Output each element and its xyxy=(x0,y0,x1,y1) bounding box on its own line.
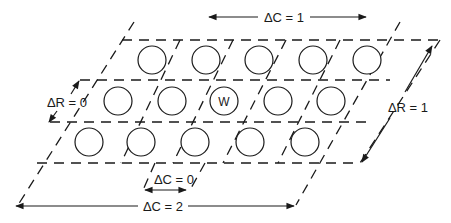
die-cell xyxy=(245,46,273,74)
delta-c-0-dimension: ΔC = 0 xyxy=(145,172,194,190)
center-cell-label: W xyxy=(218,95,230,109)
die-cell xyxy=(353,46,381,74)
die-cell xyxy=(75,128,103,156)
arrow-down xyxy=(362,118,390,162)
delta-c-2-dimension: ΔC = 2 xyxy=(16,199,294,214)
die-cell xyxy=(138,46,166,74)
delta-c-0-label: ΔC = 0 xyxy=(154,172,194,187)
arrow-up xyxy=(71,81,79,94)
die-cell xyxy=(317,87,345,115)
delta-r-0-dimension: ΔR = 0 xyxy=(47,81,87,122)
wafer-grid-diagram: W ΔC = 1 ΔR = 0 ΔR = 1 ΔC = 0 ΔC = 2 xyxy=(0,0,451,223)
die-cell xyxy=(181,128,209,156)
die-cell xyxy=(291,128,319,156)
cells: W xyxy=(75,46,381,156)
die-cell xyxy=(264,87,292,115)
delta-c-1-dimension: ΔC = 1 xyxy=(209,10,366,25)
die-cell xyxy=(236,128,264,156)
die-cell xyxy=(192,46,220,74)
arrow-down xyxy=(49,111,57,122)
delta-c-1-label: ΔC = 1 xyxy=(264,10,304,25)
die-cell xyxy=(158,87,186,115)
arrow-up xyxy=(405,46,432,92)
delta-r-0-label: ΔR = 0 xyxy=(47,95,87,110)
die-cell xyxy=(127,128,155,156)
die-cell xyxy=(299,46,327,74)
delta-c-2-label: ΔC = 2 xyxy=(143,199,183,214)
delta-r-1-label: ΔR = 1 xyxy=(388,100,428,115)
die-cell xyxy=(104,87,132,115)
